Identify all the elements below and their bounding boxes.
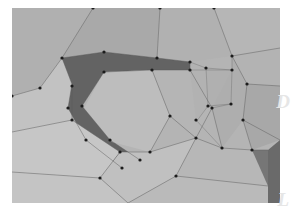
mesh-vertex-10	[102, 70, 105, 73]
mesh-vertex-31	[138, 158, 141, 161]
mesh-vertex-32	[120, 166, 123, 169]
mesh-vertex-13	[204, 66, 207, 69]
mesh-vertex-22	[70, 118, 73, 121]
watermark-letter-l: L	[277, 190, 289, 209]
mesh-vertex-8	[38, 86, 41, 89]
mesh-vertex-26	[84, 138, 87, 141]
figure-root: D L	[0, 0, 291, 220]
mesh-vertex-12	[188, 68, 191, 71]
mesh-render-canvas	[0, 0, 291, 220]
mesh-vertex-5	[155, 56, 158, 59]
watermark-letter-d: D	[276, 92, 290, 111]
mesh-vertex-36	[168, 114, 171, 117]
mesh-vertex-30	[220, 146, 223, 149]
mesh-vertex-29	[194, 136, 197, 139]
mesh-vertex-27	[118, 150, 121, 153]
mesh-vertex-21	[245, 82, 248, 85]
mesh-vertex-4	[102, 50, 105, 53]
mesh-vertex-23	[194, 118, 197, 121]
mesh-vertex-19	[229, 102, 232, 105]
mesh-vertex-17	[80, 104, 83, 107]
mesh-vertex-3	[60, 56, 63, 59]
mesh-vertex-9	[70, 84, 73, 87]
mesh-vertex-6	[188, 60, 191, 63]
mesh-vertex-14	[230, 68, 233, 71]
mesh-vertex-18	[206, 104, 209, 107]
mesh-faces-group	[12, 8, 280, 203]
mesh-vertex-28	[148, 150, 151, 153]
mesh-vertex-25	[108, 138, 111, 141]
mesh-vertex-35	[250, 148, 253, 151]
mesh-vertex-34	[98, 176, 101, 179]
mesh-vertex-16	[66, 106, 69, 109]
mesh-vertex-20	[210, 106, 213, 109]
mesh-vertex-7	[230, 54, 233, 57]
mesh-vertex-33	[174, 174, 177, 177]
mesh-vertex-11	[150, 68, 153, 71]
mesh-vertex-24	[241, 118, 244, 121]
